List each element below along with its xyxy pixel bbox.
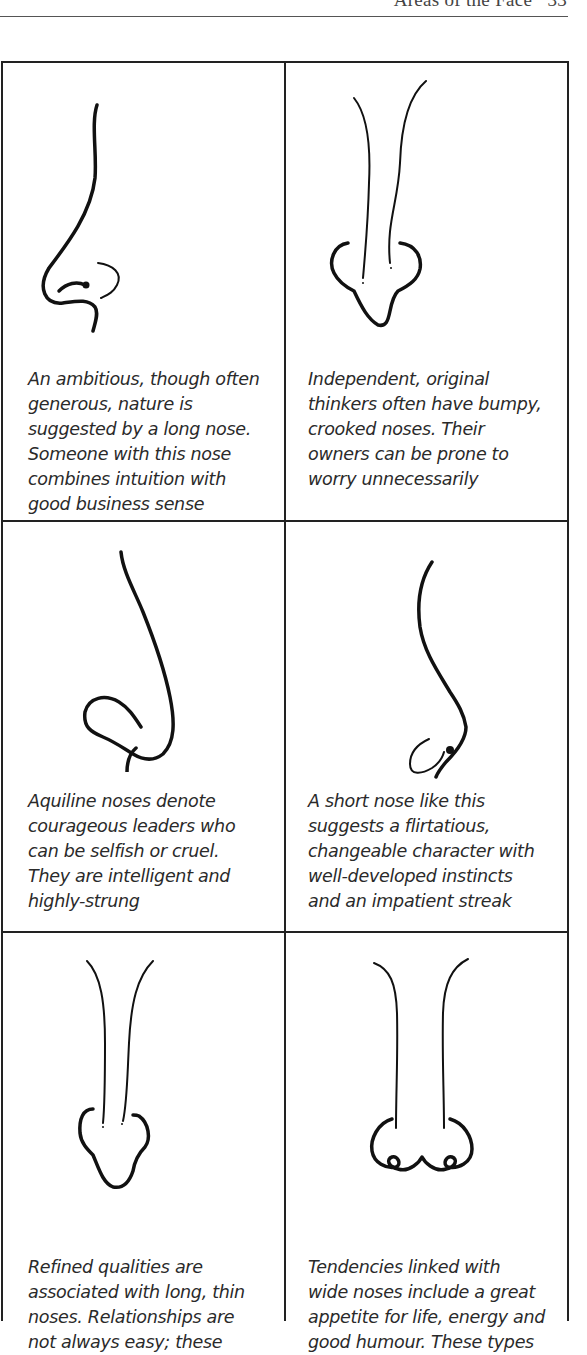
cell-description: Refined qualities areassociated with lon… (28, 1255, 245, 1355)
long-thin-nose-front-icon (63, 943, 223, 1193)
wide-nose-front-icon (356, 943, 526, 1193)
bumpy-crooked-nose-front-icon (326, 73, 526, 343)
short-nose-profile-icon (386, 542, 536, 782)
table-cell: Tendencies linked withwide noses include… (286, 933, 569, 1323)
cell-description: An ambitious, though oftengenerous, natu… (28, 367, 259, 517)
table-cell: Independent, originalthinkers often have… (286, 63, 569, 520)
table-cell: A short nose like thissuggests a flirtat… (286, 522, 569, 931)
running-head-title: Areas of the Face (394, 0, 533, 10)
cell-description: Independent, originalthinkers often have… (308, 367, 541, 492)
page-number: 33 (547, 0, 567, 10)
table-cell: An ambitious, though oftengenerous, natu… (3, 63, 284, 520)
table-cell: Aquiline noses denotecourageous leaders … (3, 522, 284, 931)
long-nose-profile-icon (33, 93, 233, 353)
cell-description: Tendencies linked withwide noses include… (308, 1255, 545, 1355)
aquiline-nose-profile-icon (43, 532, 243, 772)
cell-description: Aquiline noses denotecourageous leaders … (28, 789, 235, 914)
header-rule (0, 16, 568, 17)
running-head: Areas of the Face 33 (394, 0, 567, 11)
nose-types-table: An ambitious, though oftengenerous, natu… (1, 61, 569, 1321)
cell-description: A short nose like thissuggests a flirtat… (308, 789, 534, 914)
table-cell: Refined qualities areassociated with lon… (3, 933, 284, 1323)
